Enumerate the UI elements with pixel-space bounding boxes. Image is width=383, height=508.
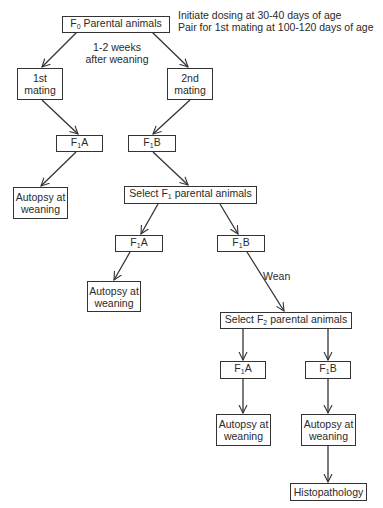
f1b-litter-node-2: F1B <box>217 235 265 252</box>
f1a-litter-node-2: F1A <box>115 235 163 252</box>
autopsy-at-weaning-node-2: Autopsy at weaning <box>87 281 141 312</box>
autopsy-at-weaning-node-1: Autopsy at weaning <box>13 187 68 219</box>
f0-parental-animals-node: F0 Parental animals <box>62 16 170 33</box>
autopsy-at-weaning-node-4: Autopsy at weaning <box>301 414 356 446</box>
f1a-litter-node-1: F1A <box>56 135 103 152</box>
f1a-litter-node-3: F1A <box>220 361 266 379</box>
second-mating-node: 2nd mating <box>167 68 213 100</box>
interval-annotation: 1-2 weeks after weaning <box>80 41 154 65</box>
dosing-annotation: Initiate dosing at 30-40 days of age Pai… <box>178 9 374 33</box>
wean-annotation: Wean <box>263 270 290 282</box>
first-mating-node: 1st mating <box>17 68 63 100</box>
select-f2-parental-animals-node: Select F2 parental animals <box>220 312 352 329</box>
f1b-litter-node-3: F1B <box>305 361 351 379</box>
histopathology-node: Histopathology <box>290 483 367 501</box>
autopsy-at-weaning-node-3: Autopsy at weaning <box>216 414 271 446</box>
f1b-litter-node-1: F1B <box>128 135 176 152</box>
select-f1-parental-animals-node: Select F1 parental animals <box>124 186 257 204</box>
